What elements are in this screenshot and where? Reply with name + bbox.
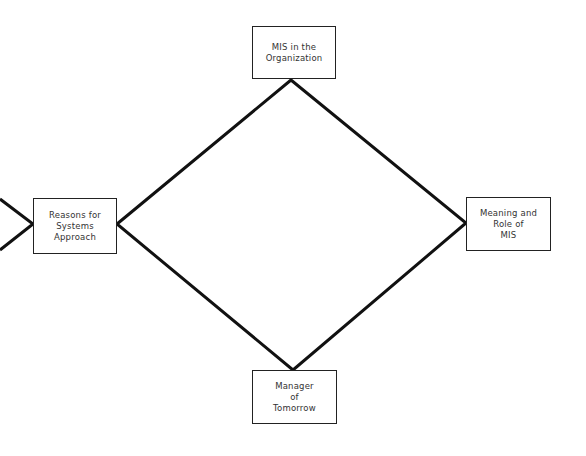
node-meaning-role-mis: Meaning and Role of MIS [466,197,551,251]
diagram-canvas: MIS in the Organization Reasons for Syst… [0,0,586,456]
node-label-line: Systems [56,221,94,232]
node-label-line: MIS in the [272,42,316,53]
node-label-line: Reasons for [49,210,101,221]
node-manager-of-tomorrow: Manager of Tomorrow [252,370,337,424]
incoming-arrow-icon [0,199,33,250]
node-label-line: Organization [266,53,323,64]
node-label-line: Manager [275,381,314,392]
node-label-line: MIS [501,230,517,241]
diamond-connector [117,80,466,370]
node-label-line: Meaning and [480,208,537,219]
node-label-line: Role of [493,219,524,230]
node-label-line: Tomorrow [273,403,316,414]
node-reasons-systems-approach: Reasons for Systems Approach [33,198,117,254]
node-label-line: of [290,392,299,403]
node-mis-in-organization: MIS in the Organization [252,26,336,79]
node-label-line: Approach [54,232,96,243]
